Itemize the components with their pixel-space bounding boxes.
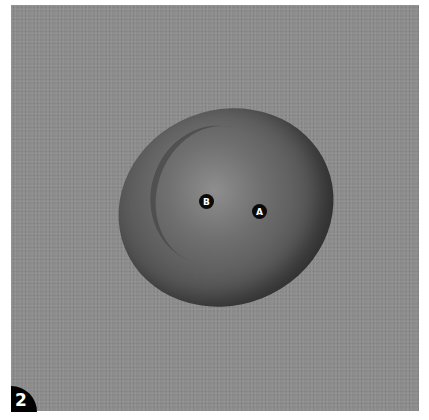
fruit-photo bbox=[11, 5, 419, 411]
figure-number: 2 bbox=[15, 390, 27, 410]
marker-b: B bbox=[199, 194, 214, 209]
marker-a: A bbox=[252, 204, 267, 219]
